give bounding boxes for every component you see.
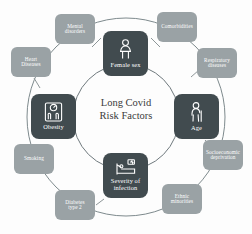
node-socioeconomic-deprivation[interactable]: Socioeconomic deprivation [203,140,243,170]
node-heart-diseases[interactable]: Heart Diseases [11,47,51,77]
elderly-person-icon [189,102,205,123]
diagram-canvas: Mental disorders Comorbidities Respirato… [0,0,252,234]
node-label: Age [191,125,202,132]
node-label: Female sex [111,62,141,69]
node-label: Ethnic minorities [171,194,193,205]
node-diabetes-type-2[interactable]: Diabetes type 2 [55,190,95,220]
weight-scale-icon [44,102,63,122]
node-label: Severity of infection [111,178,140,191]
node-label: Respiratory diseases [204,58,230,69]
node-label: Obesity [43,124,64,131]
node-respiratory-diseases[interactable]: Respiratory diseases [197,48,237,78]
node-label: Smoking [24,156,44,161]
node-comorbidities[interactable]: Comorbidities [157,12,197,42]
node-age[interactable]: Age [174,94,219,139]
node-label: Diabetes type 2 [65,200,84,211]
node-severity-of-infection[interactable]: Severity of infection [103,153,148,198]
node-label: Heart Diseases [21,57,40,68]
node-ethnic-minorities[interactable]: Ethnic minorities [162,184,202,214]
hospital-bed-icon [115,159,137,176]
node-label: Comorbidities [161,24,193,29]
female-figure-icon [118,39,133,60]
node-smoking[interactable]: Smoking [14,144,54,174]
node-mental-disorders[interactable]: Mental disorders [55,14,95,44]
center-title: Long Covid Risk Factors [84,96,168,122]
node-label: Socioeconomic deprivation [206,150,240,161]
node-label: Mental disorders [65,24,85,35]
node-female-sex[interactable]: Female sex [103,31,148,76]
node-obesity[interactable]: Obesity [31,94,76,139]
